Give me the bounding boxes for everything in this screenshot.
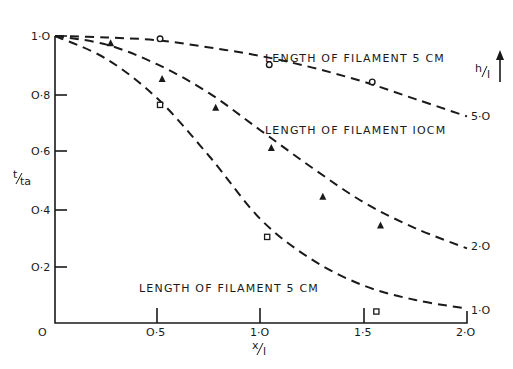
circle-marker [157,36,163,42]
xlabel-main: x [252,339,259,352]
l-label: l [487,68,490,81]
end-label-5: 5·O [471,110,490,123]
y-tick-label: O·2 [31,261,50,274]
end-label-1: 1·O [471,304,490,317]
triangle-marker [377,221,384,228]
annotation-top: LENGTH OF FILAMENT 5 CM [265,52,445,65]
y-tick-label: 1·O [31,30,50,43]
y-tick-label: O·6 [31,145,50,158]
h-label: h [475,62,482,75]
right-axis-label: h l [475,50,504,82]
data-markers [107,36,384,314]
y-tick-label: O·8 [31,89,50,102]
curve-hl-2 [55,36,467,248]
x-axis-label: x l [252,339,266,358]
triangle-marker [212,104,219,111]
chart-plot: 1·O O·8 O·6 O·4 O·2 O O·5 1·O 1·5 2·O t … [0,0,513,369]
up-arrow-icon [496,50,504,60]
x-tick-label: 1·5 [354,326,372,339]
x-tick-label: O·5 [146,326,165,339]
axes [55,36,467,323]
y-tick-label: O·4 [31,204,50,217]
y-tick-labels: 1·O O·8 O·6 O·4 O·2 [31,30,50,274]
annotation-mid: LENGTH OF FILAMENT IOCM [265,124,446,137]
x-tick-label-origin: O [38,326,47,339]
x-tick-label: 2·O [456,326,475,339]
curves [55,36,467,309]
ylabel-sub: ta [20,175,31,188]
ylabel-main: t [13,168,18,181]
triangle-marker [107,39,114,46]
x-tick-label: 1·O [250,326,269,339]
square-marker [265,234,270,239]
square-marker [374,309,379,314]
x-tick-labels: O O·5 1·O 1·5 2·O [38,326,475,339]
triangle-marker [319,193,326,200]
triangle-marker [268,144,275,151]
curve-hl-1 [55,36,467,309]
triangle-marker [159,75,166,82]
axis-lines [55,36,467,323]
square-marker [157,102,162,107]
y-axis-label: t ta [13,168,31,188]
annotation-bottom: LENGTH OF FILAMENT 5 CM [139,282,319,295]
circle-marker [369,79,375,85]
xlabel-sub: l [263,345,266,358]
end-label-2: 2·O [471,240,490,253]
